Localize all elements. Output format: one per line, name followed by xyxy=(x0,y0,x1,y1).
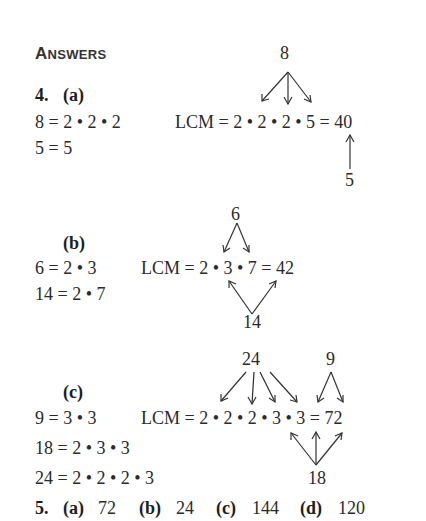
answers-page: ANSWERS 4. (a) 8 8 = 2 • 2 • 2 LCM = 2 •… xyxy=(0,0,426,521)
factor-arrows-diagram xyxy=(0,0,426,521)
arrow-icon-b-bottom xyxy=(229,281,276,314)
arrow-icon-c-top-24 xyxy=(221,372,297,404)
arrow-icon-c-top-9 xyxy=(317,372,343,402)
arrow-icon-c-bottom-18 xyxy=(291,432,342,465)
arrow-icon-a-top xyxy=(262,72,311,104)
arrow-icon-b-top xyxy=(223,223,249,252)
arrow-icon-a-bottom xyxy=(346,135,354,169)
